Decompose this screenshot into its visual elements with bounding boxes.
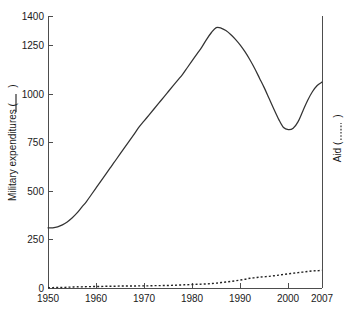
y2-axis-title-close: ) (332, 114, 343, 117)
x-tick-label: 2000 (277, 293, 300, 304)
x-tick-label: 2007 (311, 293, 334, 304)
y-tick-label: 1400 (22, 11, 45, 22)
x-tick-label: 1990 (229, 293, 252, 304)
x-tick-label: 1980 (181, 293, 204, 304)
x-tick-label: 1950 (37, 293, 60, 304)
x-tick-label: 1960 (85, 293, 108, 304)
y-axis-title-text: Military expenditures ( (7, 102, 18, 200)
y-tick-label: 0 (38, 283, 44, 294)
x-tick-label: 1970 (133, 293, 156, 304)
chart-figure: 0 250 500 750 1000 1250 1400 1950 1960 1… (0, 0, 353, 316)
y-tick-label: 500 (27, 186, 44, 197)
y2-axis-title-text: Aid ( (332, 141, 343, 162)
y-tick-label: 1250 (22, 40, 45, 51)
chart-background (0, 0, 353, 316)
y-tick-label: 750 (27, 137, 44, 148)
line-chart: 0 250 500 750 1000 1250 1400 1950 1960 1… (0, 0, 353, 316)
y-tick-label: 1000 (22, 89, 45, 100)
y-tick-label: 250 (27, 234, 44, 245)
y-axis-title-close: ) (7, 84, 18, 87)
